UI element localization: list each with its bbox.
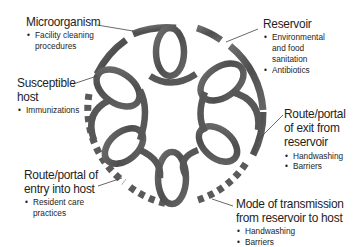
label-title-line: reservoir bbox=[284, 135, 346, 149]
label-susceptible-host: Susceptible host Immunizations bbox=[17, 76, 86, 116]
bullet-list: Handwashing Barriers bbox=[236, 226, 353, 247]
label-microorganism: Microorganism Facility cleaning procedur… bbox=[26, 15, 111, 52]
bullet-list: Environmental and food sanitation Antibi… bbox=[263, 32, 332, 75]
leader-mode-transmission bbox=[212, 199, 233, 206]
chain-broken-segments bbox=[88, 94, 248, 204]
label-title-line: host bbox=[17, 90, 78, 104]
bullet-item: Resident care practices bbox=[24, 197, 100, 219]
label-route-exit: Route/portal of exit from reservoir Hand… bbox=[284, 107, 353, 172]
label-title-line: Mode of transmission bbox=[236, 197, 344, 211]
bullet-list: Immunizations bbox=[17, 105, 86, 116]
label-route-entry: Route/portal of entry into host Resident… bbox=[24, 168, 108, 219]
bullet-item: Immunizations bbox=[17, 105, 79, 116]
label-title-line: entry into host bbox=[24, 182, 98, 196]
label-title-line: of exit from bbox=[284, 121, 346, 135]
label-title-line: from reservoir to host bbox=[236, 211, 344, 225]
bullet-item: Handwashing bbox=[284, 151, 347, 162]
bullet-item: Barriers bbox=[236, 237, 346, 247]
leader-reservoir bbox=[226, 29, 258, 42]
bullet-list: Resident care practices bbox=[24, 197, 108, 219]
bullet-list: Facility cleaning procedures bbox=[26, 30, 111, 52]
bullet-list: Handwashing Barriers bbox=[284, 151, 353, 173]
bullet-item: Barriers bbox=[284, 161, 347, 172]
bullet-item: Environmental and food sanitation bbox=[263, 32, 325, 65]
bullet-item: Handwashing bbox=[236, 226, 346, 237]
bullet-item: Antibiotics bbox=[263, 65, 325, 76]
label-title-line: Route/portal bbox=[284, 107, 346, 121]
label-mode-transmission: Mode of transmission from reservoir to h… bbox=[236, 197, 353, 247]
label-title-line: Route/portal of bbox=[24, 168, 98, 182]
label-title: Reservoir bbox=[263, 17, 323, 31]
label-title-line: Susceptible bbox=[17, 76, 78, 90]
label-title: Microorganism bbox=[26, 15, 100, 29]
bullet-item: Facility cleaning procedures bbox=[26, 30, 102, 52]
label-reservoir: Reservoir Environmental and food sanitat… bbox=[263, 17, 332, 76]
